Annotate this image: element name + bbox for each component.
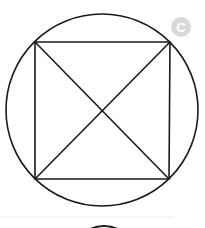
geometry-diagram: C	[0, 0, 205, 228]
badge-label: C	[176, 20, 186, 35]
next-figure-arc	[88, 226, 120, 228]
option-badge: C	[171, 17, 191, 37]
